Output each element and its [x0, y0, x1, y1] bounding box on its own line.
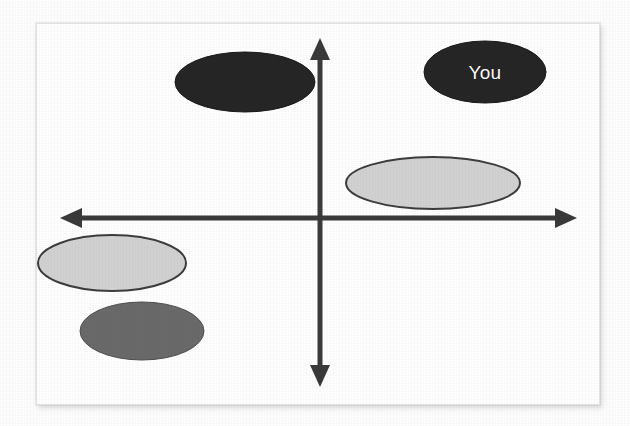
positioning-map-plot: You — [0, 0, 630, 426]
vertical-axis-top-arrowhead — [310, 38, 330, 60]
bubble-left-light[interactable] — [38, 235, 186, 291]
bubble-upper-left-dark[interactable] — [175, 52, 315, 112]
plot-svg — [0, 0, 630, 426]
figure-canvas: You — [0, 0, 630, 426]
horizontal-axis-left-arrowhead — [60, 208, 82, 228]
bubbles-group — [38, 41, 546, 360]
vertical-axis-bottom-arrowhead — [310, 365, 330, 387]
bubble-bottom-mid-gray[interactable] — [80, 302, 204, 360]
horizontal-axis-right-arrowhead — [555, 208, 577, 228]
bubble-you[interactable] — [424, 41, 546, 103]
bubble-right-light[interactable] — [346, 157, 520, 209]
